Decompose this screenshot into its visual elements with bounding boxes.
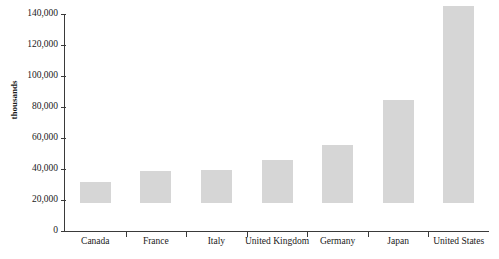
y-axis-tick <box>61 169 66 170</box>
bar <box>443 6 474 203</box>
x-axis-tick <box>186 232 187 237</box>
y-axis-tick-label: 0 <box>3 225 58 235</box>
bars-container <box>65 0 489 231</box>
y-axis-tick <box>61 231 66 232</box>
y-axis-tick <box>61 138 66 139</box>
x-axis-tick <box>307 232 308 237</box>
y-axis-tick <box>61 45 66 46</box>
y-axis-tick <box>61 14 66 15</box>
y-axis-tick-label: 100,000 <box>3 70 58 80</box>
bar <box>322 145 353 203</box>
x-axis-tick <box>247 232 248 237</box>
y-axis-tick-labels: 020,00040,00060,00080,000100,000120,0001… <box>0 0 58 259</box>
x-axis-label: United States <box>409 236 499 246</box>
x-axis-tick <box>368 232 369 237</box>
y-axis-tick-label: 40,000 <box>3 163 58 173</box>
bar <box>383 100 414 203</box>
bar <box>262 160 293 203</box>
x-axis-tick <box>428 232 429 237</box>
y-axis-tick-label: 80,000 <box>3 101 58 111</box>
x-axis-line <box>64 231 489 232</box>
y-axis-tick <box>61 76 66 77</box>
bar <box>140 171 171 203</box>
bar <box>201 170 232 203</box>
bar <box>80 182 111 203</box>
y-axis-tick <box>61 107 66 108</box>
y-axis-tick-label: 140,000 <box>3 8 58 18</box>
x-axis-category-labels: CanadaFranceItalyUnited KingdomGermanyJa… <box>65 236 489 256</box>
y-axis-tick-label: 120,000 <box>3 39 58 49</box>
y-axis-tick-label: 60,000 <box>3 132 58 142</box>
bar-chart: thousands 020,00040,00060,00080,000100,0… <box>0 0 499 259</box>
y-axis-tick <box>61 200 66 201</box>
y-axis-tick-label: 20,000 <box>3 194 58 204</box>
x-axis-tick <box>126 232 127 237</box>
